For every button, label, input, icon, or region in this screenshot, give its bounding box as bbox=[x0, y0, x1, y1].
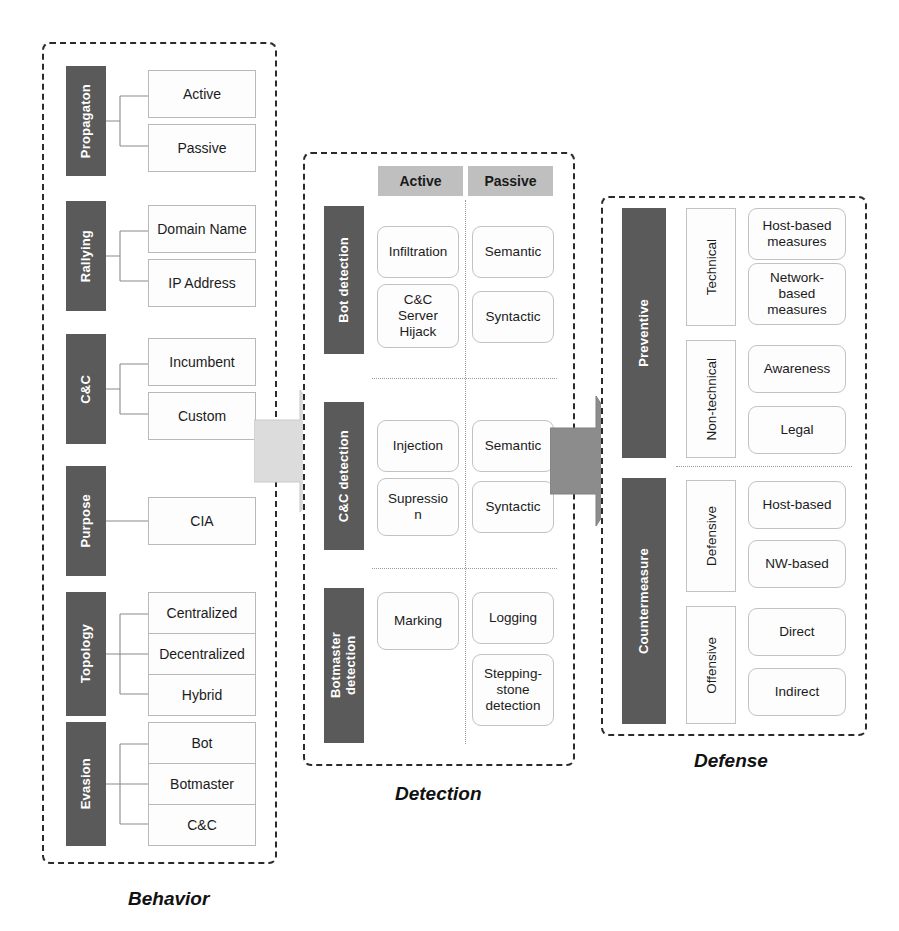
detection-cell[interactable]: Semantic bbox=[472, 420, 554, 472]
defense-item[interactable]: Legal bbox=[748, 406, 846, 454]
behavior-item[interactable]: Domain Name bbox=[148, 205, 256, 253]
detection-column-header-label: Passive bbox=[484, 173, 536, 189]
defense-item-label: Host-based bbox=[762, 497, 831, 513]
defense-item-label: Awareness bbox=[764, 361, 831, 377]
defense-item-label: NW-based bbox=[765, 556, 829, 572]
defense-subgroup-technical[interactable]: Technical bbox=[686, 208, 736, 326]
behavior-category-label: Topology bbox=[79, 624, 94, 683]
defense-item-label: Host-based measures bbox=[762, 218, 831, 250]
detection-cell[interactable]: Logging bbox=[472, 592, 554, 644]
detection-cell[interactable]: Syntactic bbox=[472, 291, 554, 343]
detection-cell[interactable]: Semantic bbox=[472, 226, 554, 278]
detection-cell-label: Marking bbox=[394, 613, 442, 629]
diagram-canvas: Propagaton Active Passive Rallying Domai… bbox=[0, 0, 899, 931]
detection-row-label: Botmaster detection bbox=[329, 632, 359, 698]
behavior-item-label: Botmaster bbox=[170, 776, 234, 792]
behavior-category-purpose[interactable]: Purpose bbox=[66, 466, 106, 576]
detection-cell-label: Syntactic bbox=[486, 499, 541, 515]
behavior-item-label: Active bbox=[183, 86, 221, 102]
behavior-item-label: Custom bbox=[178, 408, 226, 424]
defense-item-label: Direct bbox=[779, 624, 814, 640]
behavior-item[interactable]: CIA bbox=[148, 497, 256, 545]
defense-item-label: Network- based measures bbox=[767, 270, 826, 318]
defense-subgroup-label: Offensive bbox=[704, 637, 719, 694]
detection-row-botmaster-detection[interactable]: Botmaster detection bbox=[324, 588, 364, 743]
detection-cell-label: C&C Server Hijack bbox=[398, 292, 438, 340]
behavior-item-label: Passive bbox=[177, 140, 226, 156]
defense-item[interactable]: Host-based measures bbox=[748, 208, 846, 260]
detection-cell-label: Injection bbox=[393, 438, 443, 454]
behavior-item[interactable]: IP Address bbox=[148, 259, 256, 307]
detection-cell[interactable]: Marking bbox=[377, 592, 459, 650]
behavior-category-label: Propagaton bbox=[79, 84, 94, 158]
behavior-item[interactable]: Active bbox=[148, 70, 256, 118]
behavior-item[interactable]: Decentralized bbox=[148, 633, 256, 675]
behavior-item-label: IP Address bbox=[168, 275, 235, 291]
defense-item-label: Legal bbox=[780, 422, 813, 438]
defense-item[interactable]: NW-based bbox=[748, 540, 846, 588]
detection-cell[interactable]: Injection bbox=[377, 420, 459, 472]
detection-cell[interactable]: Syntactic bbox=[472, 481, 554, 533]
detection-cell-label: Semantic bbox=[485, 438, 541, 454]
behavior-category-rallying[interactable]: Rallying bbox=[66, 201, 106, 311]
behavior-item-label: Bot bbox=[191, 735, 212, 751]
detection-row-cc-detection[interactable]: C&C detection bbox=[324, 402, 364, 550]
behavior-item-label: CIA bbox=[190, 513, 213, 529]
defense-subgroup-label: Technical bbox=[704, 239, 719, 295]
behavior-category-label: Rallying bbox=[79, 230, 94, 282]
detection-cell[interactable]: Supressio n bbox=[377, 478, 459, 536]
defense-item[interactable]: Indirect bbox=[748, 668, 846, 716]
behavior-item-label: C&C bbox=[187, 817, 217, 833]
detection-cell-label: Syntactic bbox=[486, 309, 541, 325]
defense-subgroup-offensive[interactable]: Offensive bbox=[686, 606, 736, 724]
behavior-item[interactable]: Incumbent bbox=[148, 338, 256, 386]
behavior-caption: Behavior bbox=[128, 888, 209, 910]
detection-row-separator bbox=[372, 378, 557, 379]
defense-subgroup-label: Defensive bbox=[704, 506, 719, 566]
detection-row-bot-detection[interactable]: Bot detection bbox=[324, 206, 364, 354]
defense-group-label: Countermeasure bbox=[637, 548, 652, 654]
detection-column-header-passive: Passive bbox=[468, 166, 553, 196]
behavior-item[interactable]: Hybrid bbox=[148, 674, 256, 716]
behavior-item[interactable]: Passive bbox=[148, 124, 256, 172]
defense-item[interactable]: Network- based measures bbox=[748, 263, 846, 325]
behavior-item-label: Decentralized bbox=[159, 646, 245, 662]
detection-cell-label: Stepping- stone detection bbox=[484, 666, 542, 714]
behavior-category-topology[interactable]: Topology bbox=[66, 592, 106, 716]
behavior-category-label: Evasion bbox=[79, 758, 94, 809]
defense-group-separator bbox=[676, 466, 852, 467]
behavior-item-label: Centralized bbox=[167, 605, 238, 621]
behavior-item[interactable]: Custom bbox=[148, 392, 256, 440]
behavior-item-label: Domain Name bbox=[157, 221, 246, 237]
defense-group-preventive[interactable]: Preventive bbox=[622, 208, 666, 458]
detection-cell-label: Logging bbox=[489, 610, 537, 626]
detection-cell-label: Supressio n bbox=[388, 491, 448, 523]
behavior-category-label: C&C bbox=[79, 375, 94, 404]
behavior-category-propagaton[interactable]: Propagaton bbox=[66, 66, 106, 176]
detection-row-separator bbox=[372, 568, 557, 569]
defense-item[interactable]: Awareness bbox=[748, 345, 846, 393]
behavior-item[interactable]: Botmaster bbox=[148, 763, 256, 805]
detection-cell[interactable]: Infiltration bbox=[377, 226, 459, 278]
defense-item[interactable]: Host-based bbox=[748, 481, 846, 529]
detection-column-header-label: Active bbox=[399, 173, 441, 189]
defense-subgroup-defensive[interactable]: Defensive bbox=[686, 480, 736, 592]
defense-subgroup-non-technical[interactable]: Non-technical bbox=[686, 340, 736, 458]
defense-item-label: Indirect bbox=[775, 684, 819, 700]
behavior-category-evasion[interactable]: Evasion bbox=[66, 722, 106, 846]
detection-cell-label: Semantic bbox=[485, 244, 541, 260]
behavior-category-cc[interactable]: C&C bbox=[66, 334, 106, 444]
behavior-item[interactable]: C&C bbox=[148, 804, 256, 846]
detection-cell-label: Infiltration bbox=[389, 244, 448, 260]
defense-item[interactable]: Direct bbox=[748, 608, 846, 656]
detection-cell[interactable]: C&C Server Hijack bbox=[377, 284, 459, 348]
detection-cell[interactable]: Stepping- stone detection bbox=[472, 654, 554, 726]
defense-group-label: Preventive bbox=[637, 299, 652, 367]
behavior-category-label: Purpose bbox=[79, 494, 94, 547]
defense-subgroup-label: Non-technical bbox=[704, 358, 719, 441]
behavior-item[interactable]: Centralized bbox=[148, 592, 256, 634]
defense-group-countermeasure[interactable]: Countermeasure bbox=[622, 478, 666, 724]
behavior-item[interactable]: Bot bbox=[148, 722, 256, 764]
detection-row-label: C&C detection bbox=[337, 430, 352, 522]
detection-column-separator bbox=[465, 200, 466, 744]
